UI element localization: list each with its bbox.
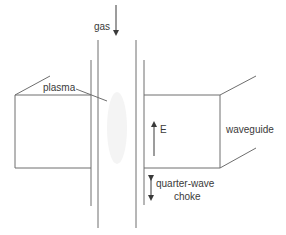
right-waveguide-section [144,76,256,168]
e-field-label: E [160,124,167,135]
choke-label-line2: choke [174,191,201,202]
plasma-label: plasma [43,82,76,93]
plasma-torch-diagram: gas plasma E waveguide quarter-wave chok… [0,0,286,235]
choke-label-line1: quarter-wave [156,178,215,189]
gas-label: gas [94,21,110,32]
plasma-glow [107,92,127,164]
waveguide-label: waveguide [225,124,274,135]
